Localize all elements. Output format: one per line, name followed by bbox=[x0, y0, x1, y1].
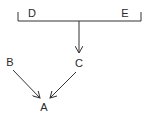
node-c-label: C bbox=[75, 58, 83, 69]
arrow-c-to-a bbox=[50, 72, 76, 98]
arrow-b-to-a bbox=[13, 70, 40, 98]
node-b-label: B bbox=[6, 57, 13, 68]
node-e-label: E bbox=[121, 8, 128, 19]
node-a-label: A bbox=[40, 102, 47, 113]
node-d-label: D bbox=[28, 8, 36, 19]
